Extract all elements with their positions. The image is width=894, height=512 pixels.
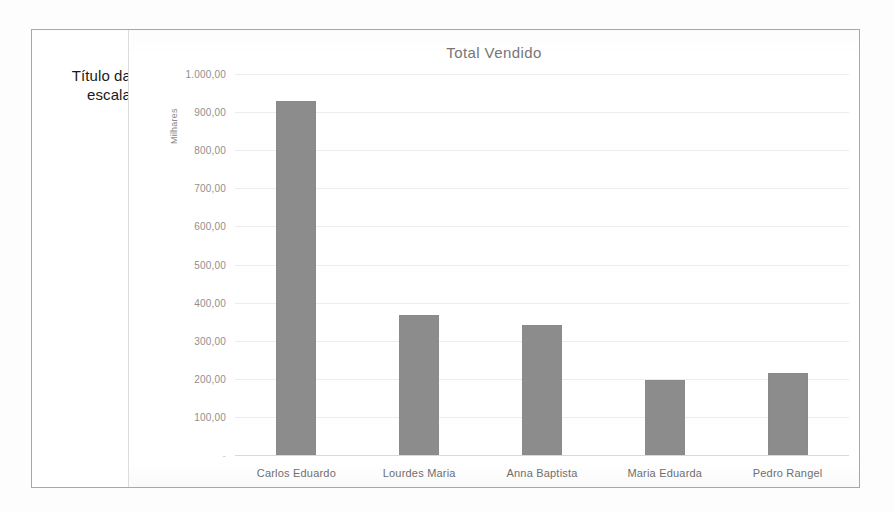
x-axis-tick-label: Maria Eduarda (627, 467, 702, 479)
x-axis-tick-label: Lourdes Maria (383, 467, 456, 479)
y-axis-tick-label: 500,00 (194, 259, 226, 270)
y-axis-tick-label: 300,00 (194, 335, 226, 346)
chart-title: Total Vendido (129, 44, 859, 61)
bar[interactable] (522, 325, 562, 455)
y-axis-tick-label: 900,00 (194, 107, 226, 118)
gridline (235, 188, 849, 189)
gridline (235, 265, 849, 266)
gridline (235, 74, 849, 75)
bar[interactable] (645, 380, 685, 455)
y-axis-tick-label: 800,00 (194, 145, 226, 156)
x-axis-tick-label: Carlos Eduardo (257, 467, 336, 479)
y-axis-tick-label: 100,00 (194, 411, 226, 422)
y-axis-tick-label: 400,00 (194, 297, 226, 308)
gridline (235, 112, 849, 113)
y-axis-tick-label: 1.000,00 (185, 69, 226, 80)
x-axis-tick-label: Pedro Rangel (753, 467, 823, 479)
gridline (235, 303, 849, 304)
y-axis-tick-label: 600,00 (194, 221, 226, 232)
gridline (235, 150, 849, 151)
plot-area: -100,00200,00300,00400,00500,00600,00700… (235, 74, 849, 455)
y-axis-tick-label: 200,00 (194, 373, 226, 384)
annotation-label: Título da escala (33, 66, 131, 104)
bar[interactable] (399, 315, 439, 455)
gridline (235, 226, 849, 227)
gridline (235, 455, 849, 456)
bar[interactable] (276, 101, 316, 455)
x-axis-tick-label: Anna Baptista (506, 467, 577, 479)
bar[interactable] (768, 373, 808, 455)
y-axis-tick-label: 700,00 (194, 183, 226, 194)
y-axis-title-label: Milhares (169, 108, 179, 144)
chart-container: Total Vendido Milhares -100,00200,00300,… (128, 30, 859, 487)
scanned-page: Título da escala Total Vendido Milhares … (0, 0, 894, 512)
y-axis-tick-label: - (222, 450, 226, 461)
y-axis-title: Milhares (158, 76, 170, 146)
